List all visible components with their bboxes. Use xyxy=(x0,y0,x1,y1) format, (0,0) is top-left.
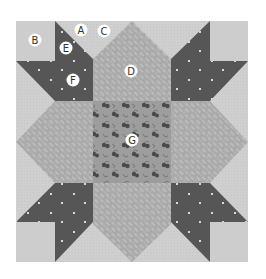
quilt-block-diagram: B A C E F D G xyxy=(0,0,266,279)
label-C: C xyxy=(98,25,111,38)
label-text: F xyxy=(70,75,76,86)
label-text: D xyxy=(127,66,135,77)
label-E: E xyxy=(60,42,73,55)
label-text: G xyxy=(128,135,136,146)
label-D: D xyxy=(125,65,138,78)
label-text: E xyxy=(63,43,69,54)
label-A: A xyxy=(75,24,88,37)
label-G: G xyxy=(126,134,139,147)
label-text: C xyxy=(101,26,108,37)
label-text: B xyxy=(32,35,39,46)
label-B: B xyxy=(29,34,42,47)
label-text: A xyxy=(78,25,85,36)
corner-square-top-right xyxy=(210,21,248,61)
label-F: F xyxy=(67,74,80,87)
corner-square-bottom-left xyxy=(16,222,55,262)
corner-square-bottom-right xyxy=(210,222,248,262)
